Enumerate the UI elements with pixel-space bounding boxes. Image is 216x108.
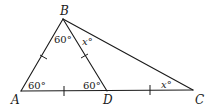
vertex-label-c: C [195,93,204,107]
angle-label-a: 60° [28,80,46,91]
angle-label-abd: 60° [54,34,72,45]
vertex-label-d: D [102,93,113,107]
vertex-label-a: A [10,93,20,107]
angle-label-dbc: x° [82,36,93,47]
angle-label-c: x° [161,79,172,90]
triangle-diagram: B A D C 60° 60° x° 60° x° [0,0,216,108]
vertex-label-b: B [59,4,69,18]
angle-label-bda: 60° [83,80,101,91]
